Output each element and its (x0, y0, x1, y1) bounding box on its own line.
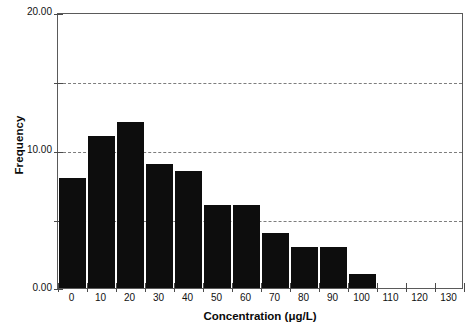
x-tick-mark (406, 283, 407, 292)
plot-area (57, 13, 463, 289)
bar (175, 171, 202, 288)
x-tick-mark (261, 283, 262, 292)
y-tick-label: 0.00 (8, 282, 52, 293)
x-axis-tick-labels: 0102030405060708090100110120130 (57, 292, 463, 308)
x-tick-mark (377, 283, 378, 292)
bar (117, 122, 144, 288)
x-tick-mark (290, 283, 291, 292)
x-tick-mark (145, 283, 146, 292)
x-tick-mark (174, 283, 175, 292)
x-axis-title: Concentration (μg/L) (57, 310, 463, 322)
bar (320, 247, 347, 288)
x-tick-mark (87, 283, 88, 292)
y-tick-label: 10.00 (8, 144, 52, 155)
bar (59, 178, 86, 288)
y-axis-tick-labels: 0.0010.0020.00 (0, 0, 52, 333)
x-tick-mark (203, 283, 204, 292)
x-tick-mark (58, 283, 59, 292)
bar (262, 233, 289, 288)
x-tick-mark (464, 283, 465, 292)
x-tick-label: 130 (429, 292, 466, 303)
bar (146, 164, 173, 288)
bar (291, 247, 318, 288)
bar (233, 205, 260, 288)
bar (88, 136, 115, 288)
bar (349, 274, 376, 288)
x-tick-mark (435, 283, 436, 292)
x-tick-mark (116, 283, 117, 292)
histogram-figure: Frequency 0.0010.0020.00 010203040506070… (0, 0, 466, 333)
y-tick-label: 20.00 (8, 6, 52, 17)
x-tick-mark (348, 283, 349, 292)
x-tick-mark (232, 283, 233, 292)
bar-series (58, 14, 462, 288)
bar (204, 205, 231, 288)
x-tick-mark (319, 283, 320, 292)
